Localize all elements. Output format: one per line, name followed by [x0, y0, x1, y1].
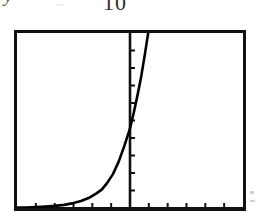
axis-layer	[17, 33, 243, 208]
equation-base-number: 10	[103, 0, 127, 14]
figure-root: y = - 10	[0, 0, 260, 219]
equation-equals-sign: =	[52, 0, 62, 3]
scan-artifact	[250, 200, 255, 202]
scan-artifact	[57, 4, 64, 6]
exponential-curve-chart	[17, 33, 243, 208]
equation-caption: y = - 10	[0, 0, 260, 30]
scan-artifact	[250, 191, 254, 194]
equation-dash: -	[82, 0, 88, 3]
plot-frame	[14, 30, 246, 211]
plot-area	[17, 33, 243, 208]
equation-variable: y	[4, 0, 12, 5]
